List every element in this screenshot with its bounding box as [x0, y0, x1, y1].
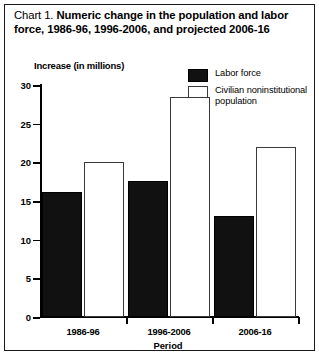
chart-number: Chart 1. — [14, 9, 53, 21]
y-tick-label: 0 — [26, 312, 31, 323]
x-tick-mark — [126, 317, 128, 324]
x-category-label: 2006-16 — [238, 326, 271, 337]
bar-civilian-population-1996-2006 — [170, 97, 210, 317]
legend-label-labor-force: Labor force — [215, 68, 261, 79]
y-tick-label: 25 — [20, 118, 31, 129]
bar-labor-force-1986-96 — [42, 192, 82, 317]
y-tick-mark — [33, 240, 40, 242]
y-axis-label: Increase (in millions) — [34, 60, 124, 71]
y-tick-mark — [33, 124, 40, 126]
x-category-label: 1986-96 — [66, 326, 99, 337]
bar-civilian-population-1986-96 — [84, 162, 124, 317]
bar-labor-force-1996-2006 — [128, 181, 168, 317]
chart-figure: Chart 1. Numeric change in the populatio… — [0, 0, 319, 355]
legend-swatch-labor-force — [188, 69, 208, 82]
bar-civilian-population-2006-16 — [256, 147, 296, 317]
y-tick-label: 5 — [26, 273, 31, 284]
x-tick-mark — [298, 317, 300, 324]
x-category-label: 1996-2006 — [147, 326, 190, 337]
y-tick-mark — [33, 162, 40, 164]
chart-title: Chart 1. Numeric change in the populatio… — [14, 8, 302, 36]
chart-title-text: Numeric change in the population and lab… — [14, 9, 288, 35]
y-tick-label: 30 — [20, 80, 31, 91]
y-tick-mark — [33, 317, 40, 319]
x-axis-title: Period — [153, 340, 182, 351]
y-tick-label: 10 — [20, 234, 31, 245]
y-tick-label: 20 — [20, 157, 31, 168]
y-tick-mark — [33, 278, 40, 280]
plot-area: 051015202530 — [40, 85, 298, 317]
y-tick-label: 15 — [20, 196, 31, 207]
y-tick-mark — [33, 201, 40, 203]
legend-item-labor-force: Labor force — [188, 68, 310, 82]
y-tick-mark — [33, 85, 40, 87]
bar-labor-force-2006-16 — [214, 216, 254, 317]
x-tick-mark — [212, 317, 214, 324]
